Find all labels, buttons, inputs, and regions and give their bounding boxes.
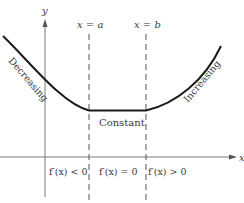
label-constant: Constant bbox=[99, 117, 145, 128]
x-axis-label: x bbox=[239, 152, 244, 163]
x-axis-arrow-icon bbox=[229, 155, 237, 160]
diagram-canvas: y x x = a x = b Decreasing Constant Incr… bbox=[0, 0, 244, 203]
interval-label-negative: f′(x) < 0 bbox=[49, 166, 88, 177]
interval-label-zero: f′(x) = 0 bbox=[99, 166, 138, 177]
label-increasing: Increasing bbox=[181, 58, 222, 104]
interval-label-positive: f′(x) > 0 bbox=[148, 166, 187, 177]
y-axis-label: y bbox=[41, 5, 48, 16]
y-axis-arrow-icon bbox=[43, 19, 48, 27]
label-x-equals-a: x = a bbox=[77, 19, 103, 30]
label-x-equals-b: x = b bbox=[134, 19, 161, 30]
